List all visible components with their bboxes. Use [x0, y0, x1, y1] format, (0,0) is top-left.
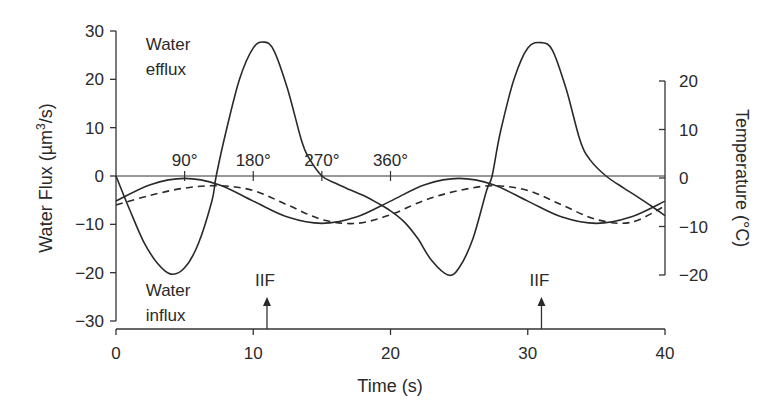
labels-layer: 3020100−10−20−3001020304020100−10−2090°1… [34, 22, 752, 396]
y-tick-label: 20 [85, 70, 104, 89]
phase-tick-label: 360° [373, 151, 408, 170]
y2-tick-label: 10 [679, 121, 698, 140]
phase-tick-label: 90° [172, 151, 198, 170]
chart: 3020100−10−20−3001020304020100−10−2090°1… [0, 0, 780, 416]
x-tick-label: 30 [518, 344, 537, 363]
y-tick-label: −20 [75, 264, 104, 283]
annotation-label: efflux [146, 60, 187, 79]
annotation-label: influx [146, 306, 186, 325]
x-tick-label: 10 [244, 344, 263, 363]
y2-tick-label: −20 [679, 266, 708, 285]
series-temperature-dashed [116, 186, 665, 224]
annotation-label: Water [146, 35, 191, 54]
annotation-label: Water [146, 281, 191, 300]
x-tick-label: 0 [111, 344, 120, 363]
y2-tick-label: −10 [679, 218, 708, 237]
phase-tick-label: 180° [236, 151, 271, 170]
y-tick-label: 0 [95, 167, 104, 186]
y-tick-label: −10 [75, 215, 104, 234]
arrow-up-icon [263, 297, 271, 306]
y-tick-label: 30 [85, 22, 104, 41]
phase-tick-label: 270° [304, 151, 339, 170]
y-axis-title: Water Flux (µm3/s) [34, 103, 56, 252]
arrow-up-icon [537, 297, 545, 306]
x-tick-label: 40 [656, 344, 675, 363]
axes [110, 31, 665, 335]
iif-label: IIF [530, 271, 550, 290]
y2-tick-label: 20 [679, 72, 698, 91]
y-tick-label: −30 [75, 312, 104, 331]
y2-axis-title: Temperature (°C) [732, 109, 752, 247]
x-tick-label: 20 [381, 344, 400, 363]
iif-label: IIF [255, 271, 275, 290]
y-tick-label: 10 [85, 119, 104, 138]
x-axis-title: Time (s) [357, 376, 422, 396]
y2-tick-label: 0 [679, 169, 688, 188]
series-temperature-solid [116, 178, 665, 223]
